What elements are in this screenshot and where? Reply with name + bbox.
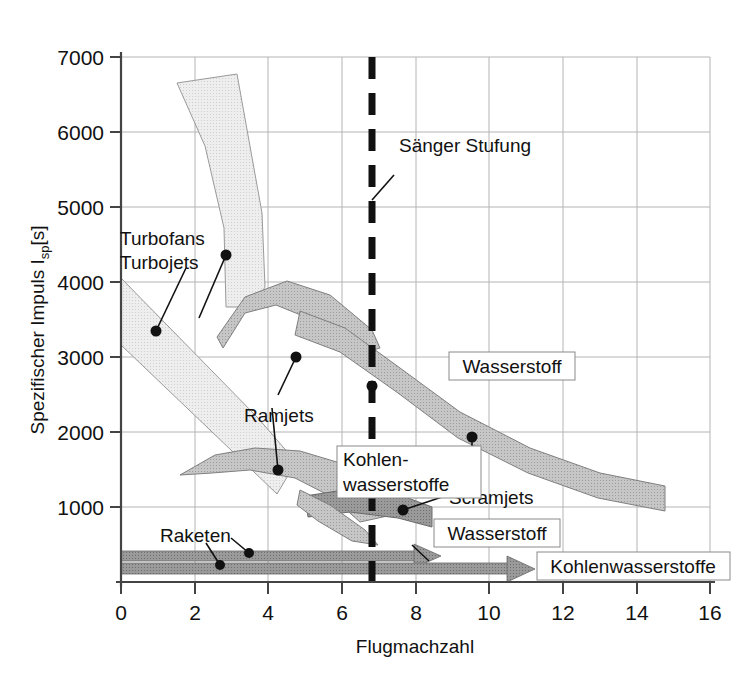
chart-svg: 7000 6000 5000 4000 3000 2000 1000 0 2 4… <box>0 0 748 674</box>
ytick-label-2000: 2000 <box>57 421 104 444</box>
ytick-label-1000: 1000 <box>57 496 104 519</box>
xtick-label-2: 2 <box>189 601 201 624</box>
marker-turbojet-hydrogen <box>221 250 232 261</box>
marker-scramjet-hydrogen <box>467 432 478 443</box>
boxed-label-kohlenwasserstoffe-arrow-text: Kohlenwasserstoffe <box>550 556 715 577</box>
ytick-label-4000: 4000 <box>57 271 104 294</box>
x-axis-title: Flugmachzahl <box>356 636 474 657</box>
xtick-label-6: 6 <box>336 601 348 624</box>
boxed-label-wasserstoff-upper-text: Wasserstoff <box>462 356 562 377</box>
y-axis-title-sub: sp <box>37 246 52 260</box>
boxed-label-kohlenwasserstoffe-arrow: Kohlenwasserstoffe <box>537 552 730 580</box>
xtick-label-16: 16 <box>698 601 721 624</box>
label-raketen: Raketen <box>160 525 231 546</box>
boxed-label-kohlenwasserstoffe: Kohlen- wasserstoffe <box>337 446 481 498</box>
marker-ramjet-hydrogen-2 <box>367 381 378 392</box>
ytick-label-3000: 3000 <box>57 346 104 369</box>
marker-scramjet-hydrocarbon <box>398 505 409 516</box>
label-ramjets: Ramjets <box>244 405 314 426</box>
boxed-label-wasserstoff-upper: Wasserstoff <box>449 352 575 380</box>
boxed-label-wasserstoff-arrow: Wasserstoff <box>434 519 560 547</box>
marker-ramjet-hydrocarbon <box>273 465 284 476</box>
y-axis-title-main: Spezifischer Impuls I <box>27 259 48 434</box>
xtick-label-4: 4 <box>262 601 274 624</box>
marker-raketen-hydrogen <box>244 548 254 558</box>
ytick-label-7000: 7000 <box>57 46 104 69</box>
boxed-label-kohlen-line2: wasserstoffe <box>342 474 449 495</box>
xtick-label-12: 12 <box>551 601 574 624</box>
marker-ramjet-hydrogen <box>291 352 302 363</box>
label-saenger-stufung: Sänger Stufung <box>399 135 531 156</box>
xtick-label-14: 14 <box>625 601 649 624</box>
boxed-label-kohlen-line1: Kohlen- <box>343 449 409 470</box>
ytick-label-6000: 6000 <box>57 121 104 144</box>
xtick-label-8: 8 <box>410 601 422 624</box>
xtick-label-0: 0 <box>115 601 127 624</box>
y-axis-title-unit: [s] <box>27 225 48 245</box>
ytick-label-5000: 5000 <box>57 196 104 219</box>
xtick-label-10: 10 <box>477 601 500 624</box>
boxed-label-wasserstoff-arrow-text: Wasserstoff <box>447 523 547 544</box>
label-turbofans: Turbofans <box>120 228 205 249</box>
chart-figure: 7000 6000 5000 4000 3000 2000 1000 0 2 4… <box>0 0 748 674</box>
label-turbojets: Turbojets <box>120 252 199 273</box>
marker-turbofan-hydrocarbon <box>151 326 162 337</box>
marker-raketen-hydrocarbon <box>215 560 225 570</box>
